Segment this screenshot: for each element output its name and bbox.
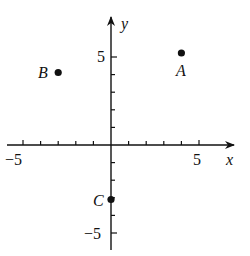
x-tick-label-neg5: −5 [5, 151, 22, 168]
x-axis-label: x [225, 151, 233, 168]
point-c-label: C [93, 192, 104, 209]
y-tick-label-neg5: −5 [84, 225, 101, 242]
point-c [107, 196, 114, 203]
point-a-label: A [175, 62, 186, 79]
point-a [178, 49, 185, 56]
y-tick-label-5: 5 [97, 48, 105, 65]
x-tick-label-5: 5 [193, 151, 201, 168]
point-b-label: B [38, 64, 48, 81]
point-b [55, 69, 62, 76]
y-axis-label: y [119, 15, 129, 33]
coordinate-plane: −5 5 5 −5 x y A B C [0, 0, 250, 256]
